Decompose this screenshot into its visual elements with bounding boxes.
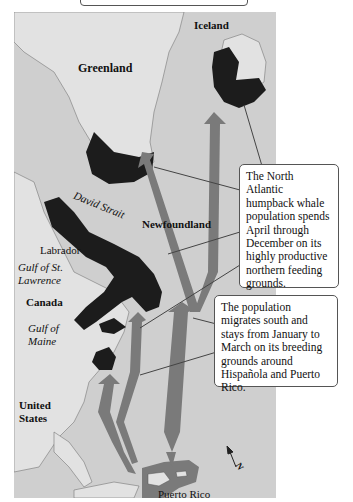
callout-breeding-grounds: The population migrates south and stays …: [214, 295, 338, 387]
callout-feeding-grounds: The North Atlantic humpback whale popula…: [239, 164, 339, 288]
